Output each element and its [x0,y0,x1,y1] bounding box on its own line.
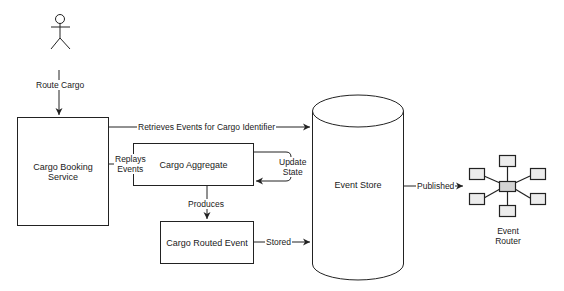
update-state-label: Update State [278,157,307,177]
stored-label: Stored [265,237,292,247]
event-router-text-line1: Event [497,226,519,236]
cargo-routed-event-text: Cargo Routed Event [166,238,248,248]
cargo-routed-event-label: Cargo Routed Event [160,221,254,264]
produces-label: Produces [187,199,225,209]
route-cargo-label: Route Cargo [35,80,85,90]
event-store-label: Event Store [312,160,404,210]
cargo-booking-service-label: Cargo Booking Service [17,117,109,226]
cargo-aggregate-text: Cargo Aggregate [159,160,227,170]
replays-events-line2: Events [117,164,143,174]
actor-stick-figure-icon[interactable] [51,15,70,50]
replays-events-line1: Replays [115,154,146,164]
update-state-line2: State [283,167,303,177]
replays-events-label: Replays Events [114,154,147,174]
published-label: Published [416,181,455,191]
update-state-line1: Update [279,157,306,167]
event-router-label: Event Router [478,224,538,248]
event-router-text-line2: Router [495,236,521,246]
event-router-icon[interactable] [470,156,546,217]
cargo-aggregate-label: Cargo Aggregate [133,143,254,186]
cargo-booking-service-text: Cargo Booking Service [17,162,109,182]
event-store-text: Event Store [334,180,381,190]
retrieves-events-label: Retrieves Events for Cargo Identifier [137,122,276,132]
